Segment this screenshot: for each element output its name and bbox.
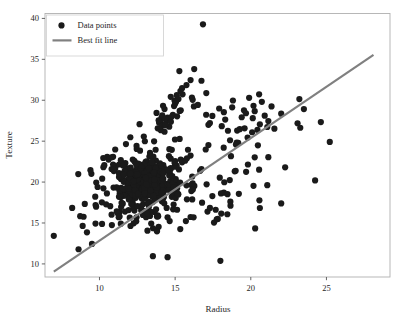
y-tick-label: 10 <box>31 259 40 269</box>
figure-container: 10152025 10152025303540 Radius Texture D… <box>0 0 403 321</box>
legend-label: Data points <box>78 20 117 30</box>
y-tick-label: 40 <box>31 13 40 23</box>
x-tick-label: 20 <box>247 283 256 293</box>
legend: Data pointsBest fit line <box>47 15 164 56</box>
legend-label: Best fit line <box>78 35 118 45</box>
scatter-plot: 10152025 10152025303540 Radius Texture D… <box>0 0 403 321</box>
y-tick-label: 25 <box>31 136 40 146</box>
x-tick-label: 25 <box>322 283 331 293</box>
y-axis-title: Texture <box>4 131 14 158</box>
x-tick-label: 10 <box>95 283 104 293</box>
y-tick-label: 35 <box>31 54 40 64</box>
y-tick-label: 20 <box>31 177 40 187</box>
y-tick-label: 30 <box>31 95 40 105</box>
x-axis-title: Radius <box>205 304 230 314</box>
y-tick-label: 15 <box>31 218 40 228</box>
legend-marker-data-points <box>58 22 64 28</box>
x-tick-label: 15 <box>171 283 180 293</box>
